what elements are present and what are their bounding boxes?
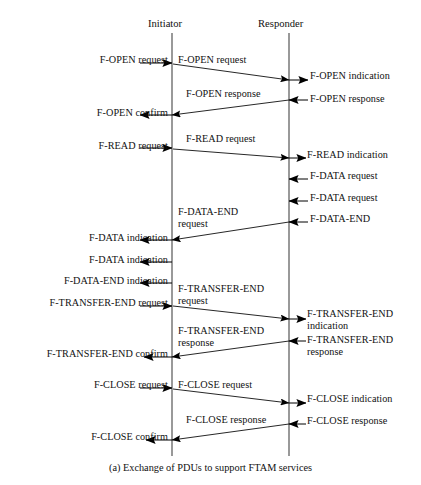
pdu-f-transfer-end-response-text: F-TRANSFER-END bbox=[178, 325, 264, 336]
f-close-confirm-text: F-CLOSE confirm bbox=[91, 431, 168, 442]
pdu-f-open-request-text: F-OPEN request bbox=[178, 54, 246, 65]
f-data-end-indication-label: F-DATA-END indication bbox=[0, 275, 168, 287]
pdu-f-read-request-text: F-READ request bbox=[186, 133, 255, 144]
f-open-indication-label: F-OPEN indication bbox=[310, 70, 390, 82]
pdu-f-close-response-label: F-CLOSE response bbox=[186, 414, 266, 426]
pdu-f-data-end-request-label: F-DATA-ENDrequest bbox=[178, 206, 238, 231]
pdu-f-transfer-end-request-label: F-TRANSFER-ENDrequest bbox=[178, 283, 264, 308]
f-transfer-end-response-label: F-TRANSFER-ENDresponse bbox=[307, 334, 393, 359]
arrow-f-close-response-pdu bbox=[172, 424, 289, 440]
arrow-f-open-response-pdu bbox=[172, 100, 289, 115]
f-transfer-end-indication-text: F-TRANSFER-END bbox=[307, 308, 393, 319]
f-data-request-1-label: F-DATA request bbox=[310, 170, 378, 182]
f-close-request-text: F-CLOSE request bbox=[94, 379, 168, 390]
arrow-f-transfer-end-request-pdu bbox=[173, 306, 289, 319]
f-open-indication-text: F-OPEN indication bbox=[310, 70, 390, 81]
f-open-response-label: F-OPEN response bbox=[310, 93, 385, 105]
f-close-confirm-label: F-CLOSE confirm bbox=[0, 431, 168, 443]
f-transfer-end-indication-text-line2: indication bbox=[307, 320, 348, 331]
pdu-f-read-request-label: F-READ request bbox=[186, 133, 255, 145]
pdu-f-close-request-label: F-CLOSE request bbox=[178, 379, 252, 391]
arrow-f-read-request-pdu bbox=[173, 149, 289, 158]
f-data-end-text: F-DATA-END bbox=[310, 213, 370, 224]
f-data-indication-1-text: F-DATA indication bbox=[89, 232, 168, 243]
f-open-confirm-label: F-OPEN confirm bbox=[0, 107, 168, 119]
f-transfer-end-indication-label: F-TRANSFER-ENDindication bbox=[307, 308, 393, 333]
f-transfer-end-confirm-label: F-TRANSFER-END confirm bbox=[0, 348, 168, 360]
f-close-response-text: F-CLOSE response bbox=[307, 415, 387, 426]
column-header-responder: Responder bbox=[258, 18, 303, 29]
arrow-f-close-request-pdu bbox=[173, 389, 289, 403]
pdu-f-open-request-label: F-OPEN request bbox=[178, 54, 246, 66]
figure-caption: (a) Exchange of PDUs to support FTAM ser… bbox=[0, 462, 421, 473]
f-close-indication-text: F-CLOSE indication bbox=[307, 393, 393, 404]
ftam-pdu-exchange-diagram: Initiator Responder F-OPEN requestF-OPEN… bbox=[0, 0, 421, 485]
pdu-f-transfer-end-request-text-line2: request bbox=[178, 295, 208, 306]
f-data-end-indication-text: F-DATA-END indication bbox=[64, 275, 168, 286]
pdu-f-transfer-end-response-text-line2: response bbox=[178, 337, 214, 348]
arrow-f-open-request-pdu bbox=[173, 64, 289, 80]
f-close-indication-label: F-CLOSE indication bbox=[307, 393, 393, 405]
pdu-f-open-response-text: F-OPEN response bbox=[186, 88, 261, 99]
f-data-request-1-text: F-DATA request bbox=[310, 170, 378, 181]
pdu-f-transfer-end-response-label: F-TRANSFER-ENDresponse bbox=[178, 325, 264, 350]
f-data-end-label: F-DATA-END bbox=[310, 213, 370, 225]
f-transfer-end-request-text: F-TRANSFER-END request bbox=[49, 297, 168, 308]
f-data-request-2-text: F-DATA request bbox=[310, 192, 378, 203]
f-close-request-label: F-CLOSE request bbox=[0, 379, 168, 391]
pdu-f-data-end-request-text: F-DATA-END bbox=[178, 206, 238, 217]
f-transfer-end-response-text-line2: response bbox=[307, 346, 343, 357]
f-transfer-end-response-text: F-TRANSFER-END bbox=[307, 334, 393, 345]
f-data-indication-2-label: F-DATA indication bbox=[0, 254, 168, 266]
f-open-confirm-text: F-OPEN confirm bbox=[97, 107, 168, 118]
f-read-indication-label: F-READ indication bbox=[307, 149, 388, 161]
pdu-f-close-response-text: F-CLOSE response bbox=[186, 414, 266, 425]
f-open-request-label: F-OPEN request bbox=[0, 54, 168, 66]
f-data-indication-2-text: F-DATA indication bbox=[89, 254, 168, 265]
pdu-f-close-request-text: F-CLOSE request bbox=[178, 379, 252, 390]
f-data-request-2-label: F-DATA request bbox=[310, 192, 378, 204]
f-close-response-label: F-CLOSE response bbox=[307, 415, 387, 427]
pdu-f-data-end-request-text-line2: request bbox=[178, 218, 208, 229]
f-transfer-end-request-label: F-TRANSFER-END request bbox=[0, 297, 168, 309]
f-open-request-text: F-OPEN request bbox=[100, 54, 168, 65]
column-header-initiator: Initiator bbox=[148, 18, 182, 29]
f-read-request-label: F-READ request bbox=[0, 140, 168, 152]
f-read-request-text: F-READ request bbox=[99, 140, 168, 151]
pdu-f-open-response-label: F-OPEN response bbox=[186, 88, 261, 100]
f-transfer-end-confirm-text: F-TRANSFER-END confirm bbox=[47, 348, 168, 359]
f-read-indication-text: F-READ indication bbox=[307, 149, 388, 160]
pdu-f-transfer-end-request-text: F-TRANSFER-END bbox=[178, 283, 264, 294]
f-open-response-text: F-OPEN response bbox=[310, 93, 385, 104]
f-data-indication-1-label: F-DATA indication bbox=[0, 232, 168, 244]
